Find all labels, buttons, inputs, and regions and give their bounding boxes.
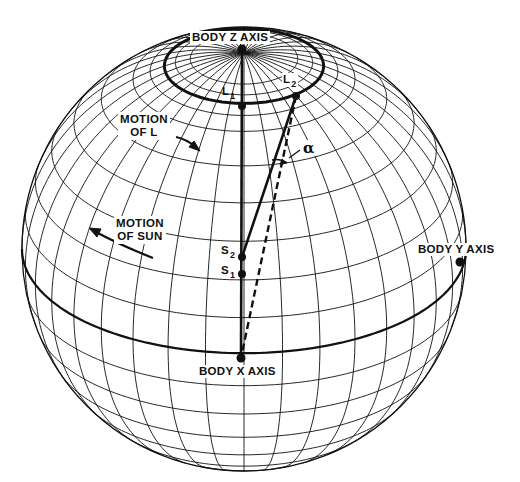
- motion-of-sun-line2: OF SUN: [116, 230, 164, 243]
- body-y-axis-label: BODY Y AXIS: [416, 243, 496, 256]
- l1-subscript: 1: [230, 91, 235, 101]
- s2-label: S2: [221, 244, 235, 258]
- l1-label: L1: [222, 85, 236, 99]
- sphere-diagram: BODY Z AXIS L1 L2 MOTION OF L MOTION OF …: [0, 0, 520, 482]
- axes-overlay: [89, 45, 465, 363]
- l2-subscript: 2: [291, 79, 296, 89]
- s1-subscript: 1: [230, 270, 235, 280]
- body-z-axis-label: BODY Z AXIS: [190, 31, 270, 44]
- s2-letter: S: [221, 244, 229, 256]
- s2-subscript: 2: [230, 250, 235, 260]
- motion-of-l-label: MOTION OF L: [118, 112, 170, 140]
- l2-label: L2: [282, 73, 298, 87]
- motion-of-l-line2: OF L: [120, 126, 168, 139]
- motion-of-l-line1: MOTION: [120, 113, 168, 126]
- l1-letter: L: [222, 85, 229, 97]
- l2-letter: L: [283, 73, 290, 85]
- body-x-axis-label: BODY X AXIS: [197, 365, 278, 378]
- s1-letter: S: [221, 264, 229, 276]
- motion-of-sun-label: MOTION OF SUN: [114, 216, 166, 244]
- motion-of-sun-line1: MOTION: [116, 217, 164, 230]
- alpha-angle-label: α: [302, 140, 316, 156]
- s1-label: S1: [221, 264, 235, 278]
- globe-graphic: [0, 0, 520, 482]
